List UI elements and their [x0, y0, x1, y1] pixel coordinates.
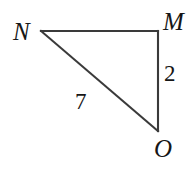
vertex-label-N: N	[13, 19, 30, 44]
side-NO-line	[41, 31, 158, 131]
side-length-label-NO: 7	[75, 90, 87, 113]
vertex-label-O: O	[154, 136, 172, 161]
side-length-label-MO: 2	[164, 62, 176, 85]
vertex-label-M: M	[163, 9, 184, 34]
geometry-figure: N M O 2 7	[0, 0, 191, 191]
